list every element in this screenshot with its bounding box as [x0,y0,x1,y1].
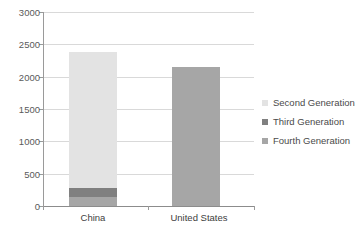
y-axis-label-1000: 1000 [4,137,40,146]
legend: Second Generation Third Generation Fourt… [262,93,362,150]
y-axis-labels: 3000 2500 2000 1500 1000 500 0 [0,0,40,234]
bar-segment-china-third-generation [69,188,117,197]
bar-chart: 3000 2500 2000 1500 1000 500 0 China Uni… [0,0,363,234]
legend-item-second-generation: Second Generation [262,93,362,112]
bar-segment-united-states-fourth-generation [172,67,220,206]
y-axis-label-3000: 3000 [4,8,40,17]
legend-item-fourth-generation: Fourth Generation [262,131,362,150]
y-axis-label-1500: 1500 [4,105,40,114]
bar-segment-china-second-generation [69,52,117,188]
x-axis-line [43,206,255,207]
legend-label-third-generation: Third Generation [273,116,344,127]
y-axis-label-2500: 2500 [4,40,40,49]
gridline-3000 [44,12,254,13]
y-axis-label-0: 0 [4,202,40,211]
legend-label-second-generation: Second Generation [273,97,355,108]
x-axis-label-united-states: United States [154,212,244,223]
bar-china [69,52,117,206]
legend-swatch-icon-fourth-generation [262,138,268,144]
legend-label-fourth-generation: Fourth Generation [273,135,350,146]
x-axis-label-china: China [69,212,117,223]
x-tick-right [254,206,255,210]
x-tick-left [43,206,44,210]
plot-area [44,12,254,206]
legend-swatch-icon-second-generation [262,100,268,106]
y-axis-label-2000: 2000 [4,73,40,82]
legend-item-third-generation: Third Generation [262,112,362,131]
bar-segment-china-fourth-generation [69,197,117,206]
legend-swatch-icon-third-generation [262,119,268,125]
y-axis-label-500: 500 [4,170,40,179]
gridline-2500 [44,44,254,45]
x-tick-middle [148,206,149,210]
bar-united-states [172,67,220,206]
